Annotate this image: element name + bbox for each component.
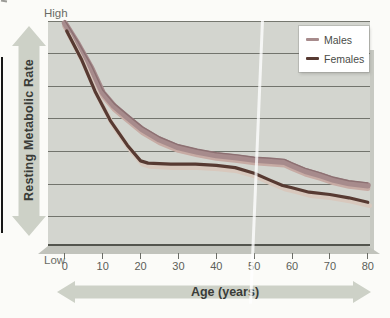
gridline (48, 151, 370, 152)
y-axis-high-label: High (44, 7, 84, 19)
gridline (48, 118, 370, 119)
x-axis-line (48, 244, 370, 246)
page-edge-artifact (1, 57, 3, 233)
x-tick-label: 20 (128, 260, 154, 272)
y-axis-low-label: Low (44, 254, 84, 266)
legend-label: Males (324, 34, 352, 46)
x-tick (178, 253, 179, 259)
x-tick (329, 253, 330, 259)
x-axis-title: Age (years) (57, 281, 371, 303)
x-tick-label: 80 (355, 260, 381, 272)
x-tick-label: 70 (317, 260, 343, 272)
legend-item-males: Males (306, 34, 369, 46)
metabolic-rate-figure: 01020304050607080 High Resting Metabolic… (0, 0, 390, 318)
y-axis-title: Resting Metabolic Rate (21, 30, 37, 230)
legend-item-females: Females (306, 53, 369, 65)
gridline (48, 86, 370, 87)
gridline (48, 216, 370, 217)
plot-side-wall (370, 50, 374, 250)
corner-artifact (1, 0, 7, 2)
males-swatch (306, 38, 319, 41)
x-tick (140, 253, 141, 259)
x-tick (216, 253, 217, 259)
females-swatch (306, 57, 319, 60)
x-tick (292, 253, 293, 259)
legend-label: Females (324, 53, 364, 65)
x-tick-label: 30 (165, 260, 191, 272)
x-tick-label: 50 (241, 260, 267, 272)
x-tick-label: 60 (279, 260, 305, 272)
legend: Males Females (299, 26, 369, 72)
x-tick-label: 40 (203, 260, 229, 272)
gridline (48, 184, 370, 185)
x-tick (102, 253, 103, 259)
x-tick (367, 253, 368, 259)
x-tick-label: 10 (90, 260, 116, 272)
